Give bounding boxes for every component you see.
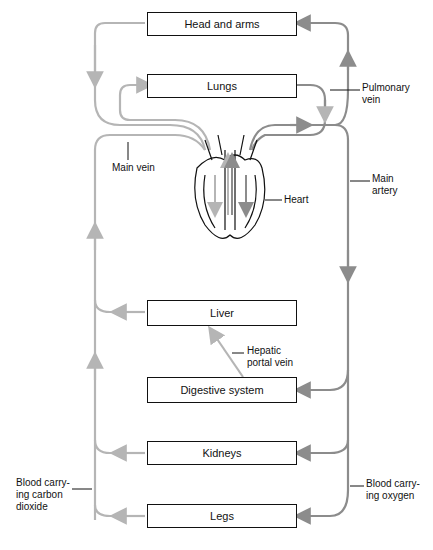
organ-legs: Legs [147,504,297,528]
label-pulmonary-vein: Pulmonaryvein [362,82,410,106]
organ-kidneys: Kidneys [147,441,297,465]
organ-digestive-system: Digestive system [147,377,297,403]
label-blood-oxygen: Blood carry-ing oxygen [366,478,420,502]
label-hepatic-portal-vein: Hepaticportal vein [247,345,293,369]
organ-lungs: Lungs [147,74,297,98]
label-main-artery: Mainartery [372,173,398,197]
heart-icon [195,135,265,238]
label-main-vein: Main vein [112,162,155,174]
label-blood-carbon-dioxide: Blood carry-ing carbondioxide [16,477,70,513]
label-heart: Heart [284,194,308,206]
hepatic-portal-vein [213,333,243,377]
organ-head-and-arms: Head and arms [147,12,297,36]
organ-liver: Liver [147,300,297,326]
